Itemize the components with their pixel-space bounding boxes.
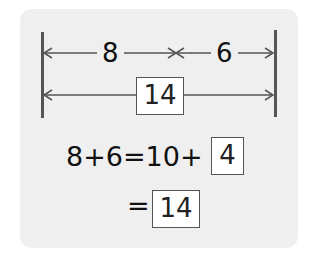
segment-label-6: 6 [211,38,238,68]
segment-label-8: 8 [97,38,124,68]
total-answer-box[interactable]: 14 [136,77,184,115]
equation-box-4[interactable]: 4 [211,137,244,175]
equation-line-2: = [127,189,150,223]
equation-line-1: 8+6=10+ [66,140,203,174]
equation-box-14[interactable]: 14 [152,190,200,228]
